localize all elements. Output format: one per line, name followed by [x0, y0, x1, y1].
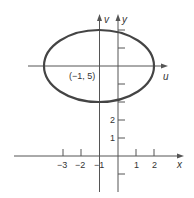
x-tick-label-neg1: −1 — [94, 160, 104, 170]
x-axis-ticks — [63, 149, 154, 156]
y-tick-label-1: 1 — [110, 133, 115, 143]
v-axis-label: v — [104, 14, 110, 25]
x-tick-label-2: 2 — [152, 160, 157, 170]
y-axis — [116, 14, 121, 192]
center-label: (−1, 5) — [69, 71, 95, 81]
ellipse-diagram: v y u x (−1, 5) 2 1 −3 −2 −1 1 2 — [0, 0, 194, 198]
x-axis-label: x — [176, 159, 183, 170]
y-axis-ticks — [118, 30, 125, 174]
u-axis-label: u — [163, 71, 169, 82]
y-tick-label-2: 2 — [110, 115, 115, 125]
x-tick-label-neg2: −2 — [75, 160, 85, 170]
y-axis-label: y — [121, 14, 128, 25]
u-axis — [28, 64, 168, 69]
x-tick-label-1: 1 — [134, 160, 139, 170]
x-tick-label-neg3: −3 — [57, 160, 67, 170]
